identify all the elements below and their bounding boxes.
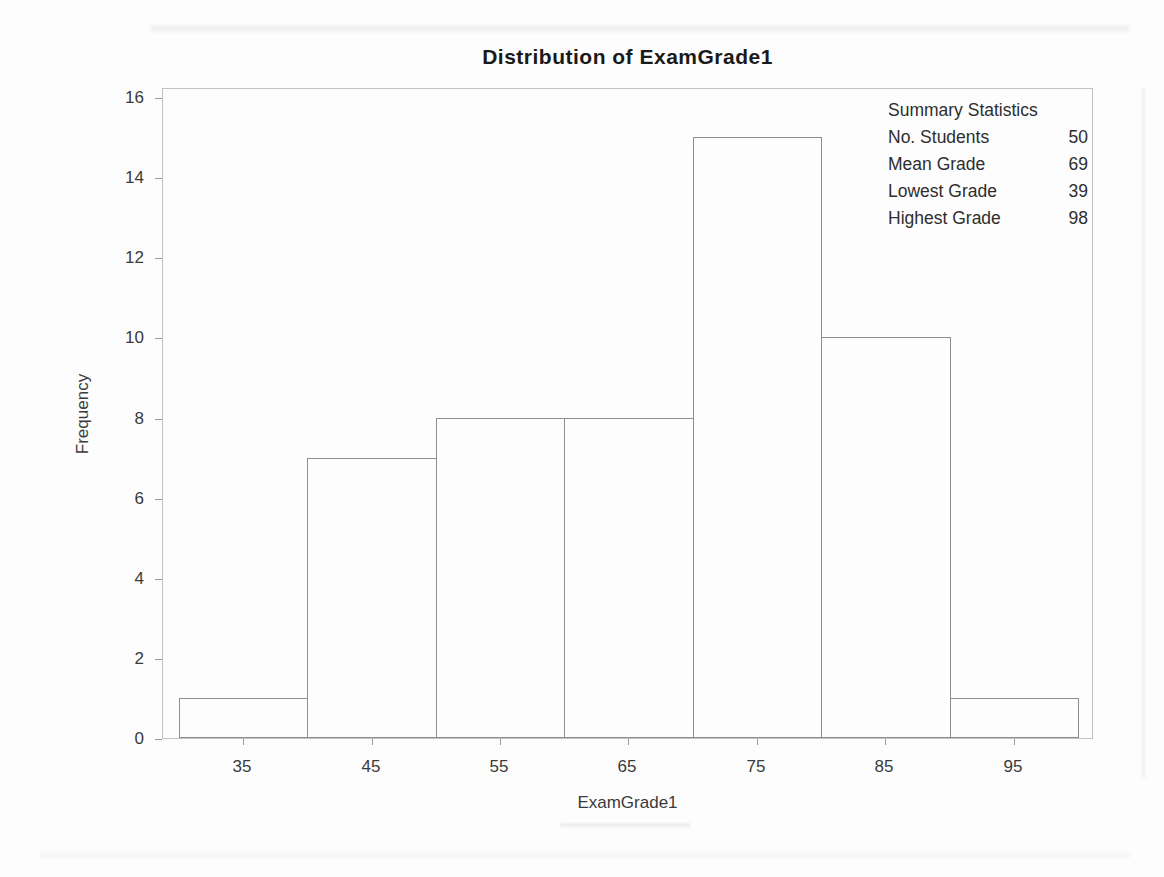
summary-statistics-panel: Summary Statistics No. Students50Mean Gr… [888, 97, 1088, 232]
y-tick-mark [155, 659, 162, 660]
y-axis-title: Frequency [73, 319, 93, 509]
summary-row-label: Mean Grade [888, 151, 985, 178]
y-tick-label: 8 [94, 410, 144, 428]
x-tick-mark [500, 739, 501, 745]
summary-row: Mean Grade69 [888, 151, 1088, 178]
summary-rows: No. Students50Mean Grade69Lowest Grade39… [888, 124, 1088, 232]
histogram-chart: Distribution of ExamGrade1 0246810121416… [0, 0, 1164, 877]
x-tick-label: 75 [726, 757, 786, 777]
y-tick-mark [155, 739, 162, 740]
histogram-bar-45 [307, 458, 437, 738]
x-tick-label: 85 [854, 757, 914, 777]
summary-row-value: 69 [1069, 151, 1088, 178]
y-tick-mark [155, 579, 162, 580]
y-tick-mark [155, 499, 162, 500]
x-tick-label: 95 [983, 757, 1043, 777]
histogram-bar-55 [436, 418, 565, 738]
x-tick-label: 45 [341, 757, 401, 777]
histogram-bar-65 [564, 418, 694, 738]
x-tick-mark [628, 739, 629, 745]
summary-row-label: Lowest Grade [888, 178, 997, 205]
histogram-bar-35 [179, 698, 308, 738]
summary-row-label: No. Students [888, 124, 989, 151]
scan-artifact [1142, 88, 1145, 778]
summary-row: No. Students50 [888, 124, 1088, 151]
scan-artifact [40, 852, 1130, 858]
summary-row-value: 50 [1069, 124, 1088, 151]
y-tick-label: 0 [94, 730, 144, 748]
y-tick-mark [155, 178, 162, 179]
x-axis-title: ExamGrade1 [162, 793, 1093, 813]
x-tick-mark [885, 739, 886, 745]
x-tick-label: 65 [597, 757, 657, 777]
y-tick-label: 4 [94, 570, 144, 588]
y-tick-mark [155, 98, 162, 99]
y-tick-mark [155, 419, 162, 420]
x-tick-mark [372, 739, 373, 745]
y-tick-label: 14 [94, 169, 144, 187]
x-tick-label: 55 [469, 757, 529, 777]
y-tick-mark [155, 258, 162, 259]
histogram-bar-85 [821, 337, 951, 738]
x-tick-mark [757, 739, 758, 745]
summary-row: Lowest Grade39 [888, 178, 1088, 205]
x-tick-mark [243, 739, 244, 745]
x-tick-mark [1014, 739, 1015, 745]
y-tick-mark [155, 338, 162, 339]
y-tick-label: 6 [94, 490, 144, 508]
x-tick-label: 35 [212, 757, 272, 777]
histogram-bar-95 [950, 698, 1079, 738]
summary-row-value: 98 [1069, 205, 1088, 232]
y-tick-label: 2 [94, 650, 144, 668]
scan-artifact [150, 25, 1130, 32]
histogram-bar-75 [693, 137, 822, 738]
summary-row-label: Highest Grade [888, 205, 1001, 232]
summary-panel-title: Summary Statistics [888, 97, 1088, 124]
y-tick-label: 12 [94, 249, 144, 267]
summary-row-value: 39 [1069, 178, 1088, 205]
scan-artifact [560, 823, 690, 827]
y-tick-label: 10 [94, 329, 144, 347]
summary-row: Highest Grade98 [888, 205, 1088, 232]
chart-title: Distribution of ExamGrade1 [162, 45, 1093, 69]
y-tick-label: 16 [94, 89, 144, 107]
